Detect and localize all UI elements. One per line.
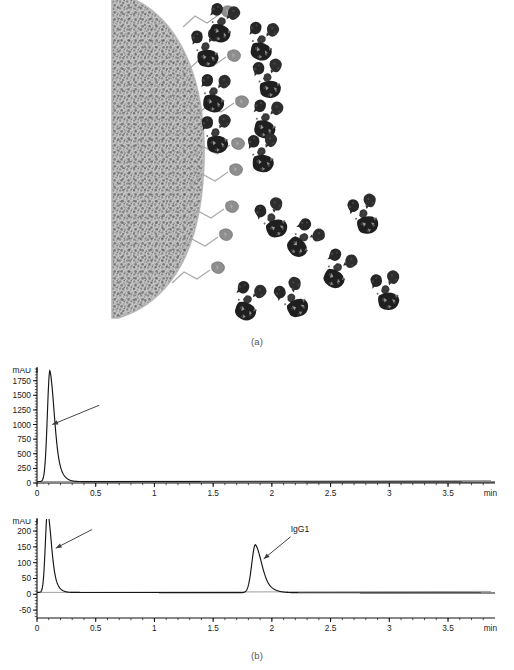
x-tick-label: 1.5 — [207, 488, 219, 498]
x-tick-label: 3 — [387, 488, 392, 498]
chromatogram-elution-plot: -50050100150200mAU00.511.522.533.5minIgG… — [0, 508, 514, 648]
y-tick-label: -50 — [19, 605, 31, 615]
y-tick-label: 0 — [26, 589, 31, 599]
x-tick-label: 2.5 — [325, 623, 337, 633]
free-antibodies — [230, 192, 406, 324]
x-tick-label: 1 — [152, 623, 157, 633]
peak-label: IgG1 — [291, 524, 310, 534]
x-tick-label: 1 — [152, 488, 157, 498]
y-tick-label: 50 — [22, 573, 32, 583]
y-tick-label: 1250 — [13, 405, 32, 415]
x-tick-label: 2.5 — [325, 488, 337, 498]
y-tick-label: 750 — [17, 434, 31, 444]
subfigure-label-a: (a) — [0, 336, 514, 347]
x-tick-label: 0 — [35, 623, 40, 633]
y-tick-label: 200 — [17, 526, 31, 536]
annotation-igg1: IgG1 — [264, 524, 310, 559]
y-tick-label: 250 — [17, 463, 31, 473]
annotation-arrow — [56, 529, 92, 548]
y-tick-label: 500 — [17, 449, 31, 459]
y-tick-label: 1750 — [13, 376, 32, 386]
y-tick-label: 1000 — [13, 420, 32, 430]
annotation-arrow — [52, 405, 99, 424]
chromatogram-flowthrough-panel: 02505007501000125015001750mAU00.511.522.… — [0, 355, 514, 503]
x-tick-label: 2 — [270, 488, 275, 498]
x-axis-unit-label: min — [484, 623, 498, 633]
subfigure-label-b: (b) — [0, 650, 514, 661]
x-tick-label: 0 — [35, 488, 40, 498]
x-axis-unit-label: min — [484, 488, 498, 498]
x-tick-label: 2 — [270, 623, 275, 633]
x-tick-label: 3.5 — [442, 623, 454, 633]
x-tick-label: 0.5 — [90, 488, 102, 498]
y-tick-label: 0 — [26, 478, 31, 488]
chromatogram-elution-panel: -50050100150200mAU00.511.522.533.5minIgG… — [0, 508, 514, 648]
y-tick-label: 100 — [17, 558, 31, 568]
chromatogram-trace — [37, 371, 495, 482]
plot-top-clip — [0, 355, 514, 368]
panel-a-schematic: (a) — [0, 0, 514, 348]
affinity-bead-schematic — [0, 0, 514, 348]
y-tick-label: 150 — [17, 542, 31, 552]
plot-top-clip — [0, 508, 514, 519]
resin-bead — [112, 0, 204, 318]
x-tick-label: 3 — [387, 623, 392, 633]
x-tick-label: 0.5 — [90, 623, 102, 633]
chromatogram-trace — [37, 510, 495, 593]
x-tick-label: 1.5 — [207, 623, 219, 633]
y-tick-label: 1500 — [13, 390, 32, 400]
surface-antibodies — [247, 21, 288, 174]
chromatogram-flowthrough-plot: 02505007501000125015001750mAU00.511.522.… — [0, 355, 514, 503]
x-tick-label: 3.5 — [442, 488, 454, 498]
